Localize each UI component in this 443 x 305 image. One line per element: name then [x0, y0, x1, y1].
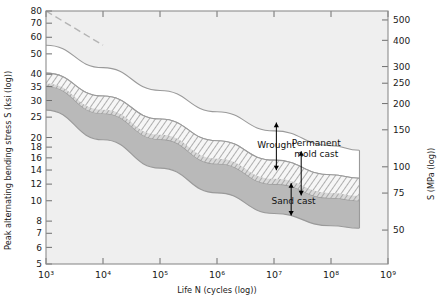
y-tick-label-left: 70	[31, 18, 43, 28]
wrought-label: Wrought	[257, 140, 296, 150]
y-tick-label-left: 5	[36, 259, 42, 269]
chart-canvas: 8070605040353025201816141210876550040030…	[0, 0, 443, 305]
fatigue-sn-chart: 8070605040353025201816141210876550040030…	[0, 0, 443, 305]
y-tick-label-right: 50	[393, 225, 405, 235]
y-tick-label-left: 30	[31, 96, 43, 106]
y-tick-label-left: 60	[31, 32, 43, 42]
y-tick-label-left: 7	[36, 228, 42, 238]
y-tick-label-right: 500	[393, 15, 410, 25]
y-tick-label-left: 18	[31, 142, 43, 152]
y-tick-label-right: 150	[393, 125, 410, 135]
x-tick-label: 10⁷	[266, 269, 282, 280]
y-tick-label-left: 12	[31, 179, 42, 189]
y-tick-label-right: 400	[393, 36, 410, 46]
y-tick-label-left: 10	[31, 196, 43, 206]
x-tick-label: 10⁹	[380, 269, 396, 280]
y-tick-label-left: 20	[31, 133, 43, 143]
y-axis-title-right: S (MPa (log))	[426, 148, 436, 200]
y-tick-label-left: 14	[31, 165, 43, 175]
y-tick-label-left: 40	[31, 69, 43, 79]
x-tick-label: 10⁵	[152, 269, 168, 280]
x-tick-label: 10³	[38, 269, 54, 280]
x-tick-label: 10⁸	[323, 269, 339, 280]
y-tick-label-right: 200	[393, 99, 410, 109]
y-tick-label-right: 300	[393, 62, 410, 72]
y-tick-label-left: 25	[31, 112, 42, 122]
y-tick-label-left: 8	[36, 216, 42, 226]
y-tick-label-left: 80	[31, 6, 43, 16]
y-axis-title-left: Peak alternating bending stress S (ksi (…	[3, 71, 13, 250]
y-tick-label-right: 250	[393, 78, 410, 88]
y-tick-label-left: 16	[31, 153, 43, 163]
y-tick-label-right: 75	[393, 188, 404, 198]
x-axis-title: Life N (cycles (log))	[177, 285, 256, 295]
x-tick-label: 10⁴	[95, 269, 111, 280]
y-tick-label-left: 50	[31, 49, 43, 59]
y-tick-label-left: 6	[36, 243, 42, 253]
x-tick-label: 10⁶	[209, 269, 225, 280]
band-right-cutoff-mask	[359, 11, 388, 264]
y-tick-label-right: 100	[393, 162, 410, 172]
permanent-mold-cast-label: Permanentmold cast	[292, 138, 341, 159]
sand-cast-label: Sand cast	[271, 196, 316, 206]
y-tick-label-left: 35	[31, 82, 42, 92]
